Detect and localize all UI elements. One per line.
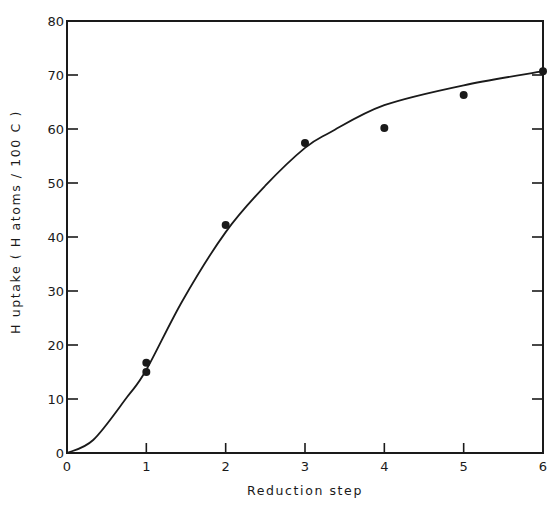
- x-tick-label: 3: [301, 459, 309, 474]
- plot-frame: [67, 21, 543, 453]
- y-tick-label: 60: [47, 122, 64, 137]
- y-tick-label: 40: [47, 230, 64, 245]
- plot-border: [67, 21, 543, 453]
- x-tick-label: 5: [460, 459, 468, 474]
- data-point: [222, 221, 230, 229]
- y-tick-label: 20: [47, 338, 64, 353]
- chart: 01020304050607080 0123456 Reduction step…: [0, 0, 553, 509]
- data-point: [142, 368, 150, 376]
- data-point: [539, 67, 547, 75]
- x-tick-label: 2: [222, 459, 230, 474]
- x-axis-label: Reduction step: [247, 483, 363, 498]
- x-axis: 0123456: [63, 443, 547, 474]
- x-tick-label: 6: [539, 459, 547, 474]
- y-tick-label: 80: [47, 14, 64, 29]
- y-tick-label: 10: [47, 392, 64, 407]
- fitted-curve: [67, 71, 543, 453]
- y-tick-label: 50: [47, 176, 64, 191]
- data-point: [380, 124, 388, 132]
- y-tick-label: 30: [47, 284, 64, 299]
- data-points: [142, 67, 547, 376]
- data-point: [460, 91, 468, 99]
- x-tick-label: 1: [142, 459, 150, 474]
- y-tick-label: 70: [47, 68, 64, 83]
- x-tick-label: 4: [380, 459, 388, 474]
- y-axis-label: H uptake ( H atoms / 100 C ): [8, 110, 23, 334]
- y-axis: 01020304050607080: [47, 14, 543, 461]
- x-tick-label: 0: [63, 459, 71, 474]
- data-point: [301, 139, 309, 147]
- data-point: [142, 359, 150, 367]
